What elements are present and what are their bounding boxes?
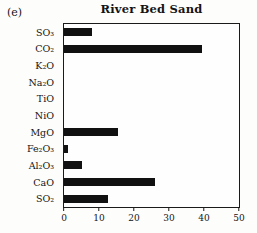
bar-row — [64, 157, 239, 174]
y-axis-label: SO₃ — [0, 24, 59, 41]
y-axis-label: Fe₂O₃ — [0, 140, 59, 157]
x-axis-tick: 30 — [163, 208, 174, 224]
bar-row — [64, 174, 239, 191]
bar-row — [64, 190, 239, 207]
bar-row — [64, 57, 239, 74]
bar-al2o3 — [64, 161, 82, 169]
y-axis-label: CO₂ — [0, 41, 59, 58]
bar-row — [64, 41, 239, 58]
y-axis-label: Na₂O — [0, 74, 59, 91]
bar-row — [64, 107, 239, 124]
x-tick-label: 50 — [233, 212, 244, 224]
bar-row — [64, 74, 239, 91]
chart-figure: (e) River Bed Sand SO₃ CO₂ K₂O Na₂O TiO … — [0, 0, 257, 233]
y-axis-label: SO₂ — [0, 190, 59, 207]
x-axis-tick: 0 — [61, 208, 67, 224]
tick-mark — [98, 208, 99, 211]
x-axis-tick: 20 — [128, 208, 139, 224]
y-axis-labels: SO₃ CO₂ K₂O Na₂O TiO NiO MgO Fe₂O₃ Al₂O₃… — [0, 24, 59, 207]
bar-row — [64, 140, 239, 157]
x-axis-tick: 10 — [93, 208, 104, 224]
y-axis-label: Al₂O₃ — [0, 157, 59, 174]
x-tick-label: 40 — [198, 212, 209, 224]
tick-mark — [203, 208, 204, 211]
chart-title: River Bed Sand — [63, 2, 240, 16]
bar-row — [64, 91, 239, 108]
x-tick-label: 20 — [128, 212, 139, 224]
bar-co2 — [64, 45, 202, 53]
x-tick-label: 0 — [61, 212, 67, 224]
y-axis-label: TiO — [0, 91, 59, 108]
bar-so3 — [64, 28, 92, 36]
x-axis: 0 10 20 30 40 50 — [64, 208, 239, 228]
x-axis-tick: 40 — [198, 208, 209, 224]
tick-mark — [238, 208, 239, 211]
x-tick-label: 30 — [163, 212, 174, 224]
bar-fe2o3 — [64, 145, 68, 153]
y-axis-label: K₂O — [0, 57, 59, 74]
tick-mark — [63, 208, 64, 211]
plot-area — [63, 23, 240, 208]
y-axis-label: MgO — [0, 124, 59, 141]
bar-mgo — [64, 128, 118, 136]
bar-row — [64, 24, 239, 41]
y-axis-label: CaO — [0, 174, 59, 191]
x-tick-label: 10 — [93, 212, 104, 224]
panel-label: (e) — [7, 6, 22, 19]
tick-mark — [133, 208, 134, 211]
bar-row — [64, 124, 239, 141]
x-axis-tick: 50 — [233, 208, 244, 224]
bar-so2 — [64, 195, 108, 203]
y-axis-label: NiO — [0, 107, 59, 124]
tick-mark — [168, 208, 169, 211]
bar-cao — [64, 178, 155, 186]
